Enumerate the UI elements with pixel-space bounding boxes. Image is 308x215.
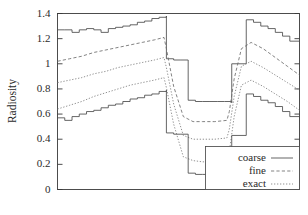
y-tick-label: 0.6 [37, 107, 51, 119]
chart-legend: coarsefineexact [206, 147, 300, 190]
legend-label-exact: exact [243, 177, 266, 189]
y-axis-label: Radiosity [6, 79, 19, 123]
y-tick-label: 0.4 [37, 132, 51, 144]
chart-svg: 00.20.40.60.811.21.4 Radiosity coarsefin… [0, 0, 308, 215]
y-tick-label: 1.2 [37, 32, 51, 44]
y-tick-label: 1 [45, 57, 51, 69]
y-tick-label: 1.4 [37, 7, 51, 19]
y-tick-label: 0.8 [37, 82, 51, 94]
y-tick-label: 0 [45, 183, 51, 195]
legend-label-fine: fine [249, 164, 266, 176]
legend-label-coarse: coarse [238, 151, 266, 163]
y-tick-label: 0.2 [37, 157, 51, 169]
radiosity-chart: 00.20.40.60.811.21.4 Radiosity coarsefin… [0, 0, 308, 215]
